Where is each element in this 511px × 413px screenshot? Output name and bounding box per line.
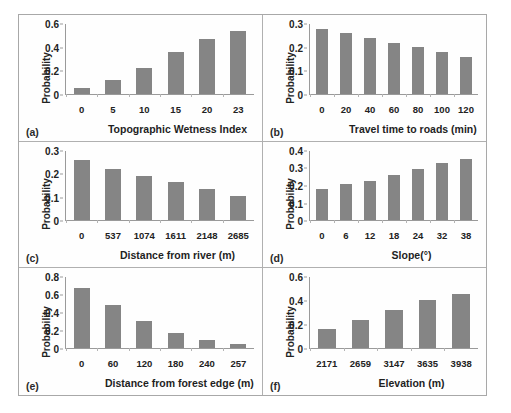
x-tick-mark	[454, 220, 455, 223]
y-tick-mark	[304, 47, 307, 48]
bar-slot	[97, 151, 128, 221]
bar	[168, 333, 184, 348]
x-axis-ticks: 020406080100120	[310, 104, 478, 115]
y-tick-mark	[60, 348, 63, 349]
bar-slot	[382, 24, 406, 94]
x-tick-label: 0	[310, 104, 334, 115]
x-axis-label: Distance from forest edge (m)	[105, 377, 250, 389]
y-tick-label: 0.6	[45, 290, 59, 301]
y-tick-label: 0.4	[45, 42, 59, 53]
y-axis-ticks: 00.10.20.3	[35, 151, 63, 222]
y-axis-ticks: 00.20.40.60.8	[35, 277, 63, 349]
bar	[105, 80, 121, 94]
x-tick-mark	[334, 94, 335, 97]
x-tick-mark	[310, 348, 311, 351]
y-tick-label: 0.6	[45, 19, 59, 30]
x-tick-mark	[129, 94, 130, 97]
x-tick-mark	[223, 94, 224, 97]
x-tick-label: 3938	[444, 358, 478, 369]
y-tick-mark	[304, 203, 307, 204]
x-tick-label: 80	[406, 104, 430, 115]
y-tick-mark	[60, 71, 63, 72]
y-axis-ticks: 00.10.20.3	[279, 24, 307, 95]
bar	[105, 169, 121, 221]
bar-slot	[129, 151, 160, 221]
y-tick-mark	[60, 174, 63, 175]
bar	[199, 39, 215, 94]
bar	[419, 300, 436, 348]
y-tick-label: 0.2	[289, 42, 303, 53]
y-tick-label: 0.2	[45, 169, 59, 180]
x-tick-label: 32	[430, 230, 454, 241]
bar	[105, 305, 121, 348]
x-tick-label: 20	[191, 104, 222, 115]
y-tick-mark	[304, 24, 307, 25]
x-tick-mark	[191, 348, 192, 351]
bar-slot	[411, 277, 445, 348]
y-tick-mark	[304, 150, 307, 151]
bar	[316, 29, 328, 94]
y-tick-label: 0.4	[45, 308, 59, 319]
x-tick-label: 2685	[223, 230, 254, 241]
bar-chart: Probability00.10.20.30.4061218243238Slop…	[263, 142, 486, 268]
bar-slot	[129, 24, 160, 94]
x-tick-label: 240	[191, 358, 222, 369]
bar-chart: Probability00.20.40.60510152023Topograph…	[19, 15, 262, 141]
bar	[74, 88, 90, 93]
x-tick-label: 0	[310, 230, 334, 241]
x-axis-ticks: 05371074161121482685	[66, 230, 254, 241]
bar-slot	[358, 151, 382, 221]
bar-slot	[382, 151, 406, 221]
x-tick-label: 10	[129, 104, 160, 115]
y-tick-label: 0	[53, 343, 59, 354]
figure-panel-grid: Probability00.20.40.60510152023Topograph…	[18, 14, 487, 396]
y-tick-label: 0	[297, 89, 303, 100]
x-tick-mark	[382, 94, 383, 97]
x-axis-label: Topographic Wetness Index	[105, 123, 250, 135]
bar	[352, 320, 369, 348]
x-tick-label: 0	[66, 230, 97, 241]
bar	[230, 31, 246, 94]
y-tick-label: 0.4	[289, 145, 303, 156]
y-tick-mark	[304, 221, 307, 222]
y-tick-label: 0.3	[289, 19, 303, 30]
x-tick-mark	[191, 94, 192, 97]
chart-panel-a: Probability00.20.40.60510152023Topograph…	[19, 15, 263, 142]
x-tick-mark	[406, 220, 407, 223]
bar	[385, 310, 402, 348]
x-tick-mark	[129, 220, 130, 223]
x-tick-label: 2171	[310, 358, 344, 369]
bar-slot	[454, 24, 478, 94]
bar-slot	[191, 151, 222, 221]
bar-series	[66, 24, 254, 94]
x-tick-mark	[406, 94, 407, 97]
x-tick-label: 1611	[160, 230, 191, 241]
plot-area: 00.10.20.3020406080100120Travel time to …	[309, 24, 478, 95]
x-tick-mark	[160, 348, 161, 351]
y-axis-ticks: 00.10.20.30.4	[279, 151, 307, 222]
y-tick-mark	[60, 313, 63, 314]
y-tick-label: 0.2	[289, 180, 303, 191]
bar	[230, 344, 246, 348]
bar-slot	[97, 277, 128, 348]
y-tick-mark	[304, 94, 307, 95]
bar-slot	[406, 151, 430, 221]
bar	[136, 68, 152, 94]
x-tick-label: 1074	[129, 230, 160, 241]
bar-series	[66, 151, 254, 221]
x-axis-label: Distance from river (m)	[105, 249, 250, 261]
bar-slot	[310, 151, 334, 221]
bar-chart: Probability00.10.20.30537107416112148268…	[19, 142, 262, 268]
x-tick-mark	[160, 220, 161, 223]
bar-slot	[66, 151, 97, 221]
x-axis-ticks: 061218243238	[310, 230, 478, 241]
bar-slot	[358, 24, 382, 94]
bar	[74, 288, 90, 348]
y-tick-label: 0	[297, 216, 303, 227]
y-tick-mark	[60, 94, 63, 95]
bar-chart: Probability00.20.40.60.8060120180240257D…	[19, 268, 262, 395]
panel-tag: (c)	[26, 252, 39, 264]
bar	[74, 160, 90, 220]
x-tick-label: 120	[454, 104, 478, 115]
bar	[452, 294, 469, 348]
